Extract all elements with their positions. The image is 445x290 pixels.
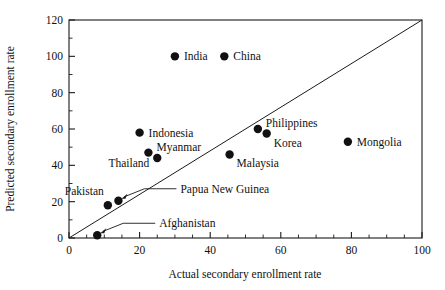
data-point-marker bbox=[225, 150, 233, 158]
data-point-marker bbox=[262, 129, 270, 137]
leader-line bbox=[124, 189, 176, 197]
y-axis-ticks bbox=[69, 20, 75, 238]
data-point-markers bbox=[93, 52, 352, 239]
y-tick-label: 20 bbox=[52, 196, 64, 208]
y-tick-label: 80 bbox=[52, 87, 64, 99]
data-point-marker bbox=[144, 148, 152, 156]
x-tick-label: 100 bbox=[413, 244, 431, 256]
data-point-label: Pakistan bbox=[65, 185, 104, 197]
x-tick-label: 40 bbox=[204, 244, 216, 256]
data-point-marker bbox=[220, 52, 228, 60]
data-point-marker bbox=[93, 231, 101, 239]
x-axis-tick-labels: 020406080100 bbox=[66, 244, 431, 256]
data-point-label: India bbox=[184, 50, 208, 62]
y-tick-label: 100 bbox=[46, 50, 64, 62]
x-tick-label: 20 bbox=[134, 244, 146, 256]
data-point-label: Papua New Guinea bbox=[180, 183, 269, 196]
data-point-label: Korea bbox=[274, 137, 302, 149]
x-axis-title: Actual secondary enrollment rate bbox=[169, 268, 322, 281]
data-point-label: Afghanistan bbox=[159, 217, 215, 230]
data-point-label: Indonesia bbox=[149, 127, 194, 139]
x-tick-label: 80 bbox=[346, 244, 358, 256]
data-point-label: Malaysia bbox=[237, 157, 279, 170]
data-point-marker bbox=[104, 201, 112, 209]
data-point-marker bbox=[344, 138, 352, 146]
y-tick-label: 40 bbox=[52, 159, 64, 171]
y-axis-tick-labels: 020406080100120 bbox=[46, 14, 64, 244]
y-tick-label: 60 bbox=[52, 123, 64, 135]
x-axis-ticks bbox=[69, 232, 422, 238]
x-tick-label: 0 bbox=[66, 244, 72, 256]
data-point-label: Mongolia bbox=[357, 136, 402, 149]
data-point-marker bbox=[135, 128, 143, 136]
data-point-label: Philippines bbox=[266, 117, 318, 130]
data-point-label: China bbox=[233, 50, 260, 62]
data-point-marker bbox=[114, 197, 122, 205]
y-axis-title: Predicted secondary enrollment rate bbox=[4, 46, 17, 212]
data-point-marker bbox=[254, 125, 262, 133]
y-tick-label: 120 bbox=[46, 14, 64, 26]
data-point-label: Thailand bbox=[108, 157, 149, 169]
leader-line bbox=[103, 223, 155, 231]
x-tick-label: 60 bbox=[275, 244, 287, 256]
scatter-plot: 020406080100 020406080100120 IndiaChinaI… bbox=[0, 0, 445, 290]
chart-screenshot: 020406080100 020406080100120 IndiaChinaI… bbox=[0, 0, 445, 290]
data-point-marker bbox=[171, 52, 179, 60]
data-point-marker bbox=[153, 154, 161, 162]
y-tick-label: 0 bbox=[57, 232, 63, 244]
data-point-label: Myanmar bbox=[156, 141, 201, 154]
